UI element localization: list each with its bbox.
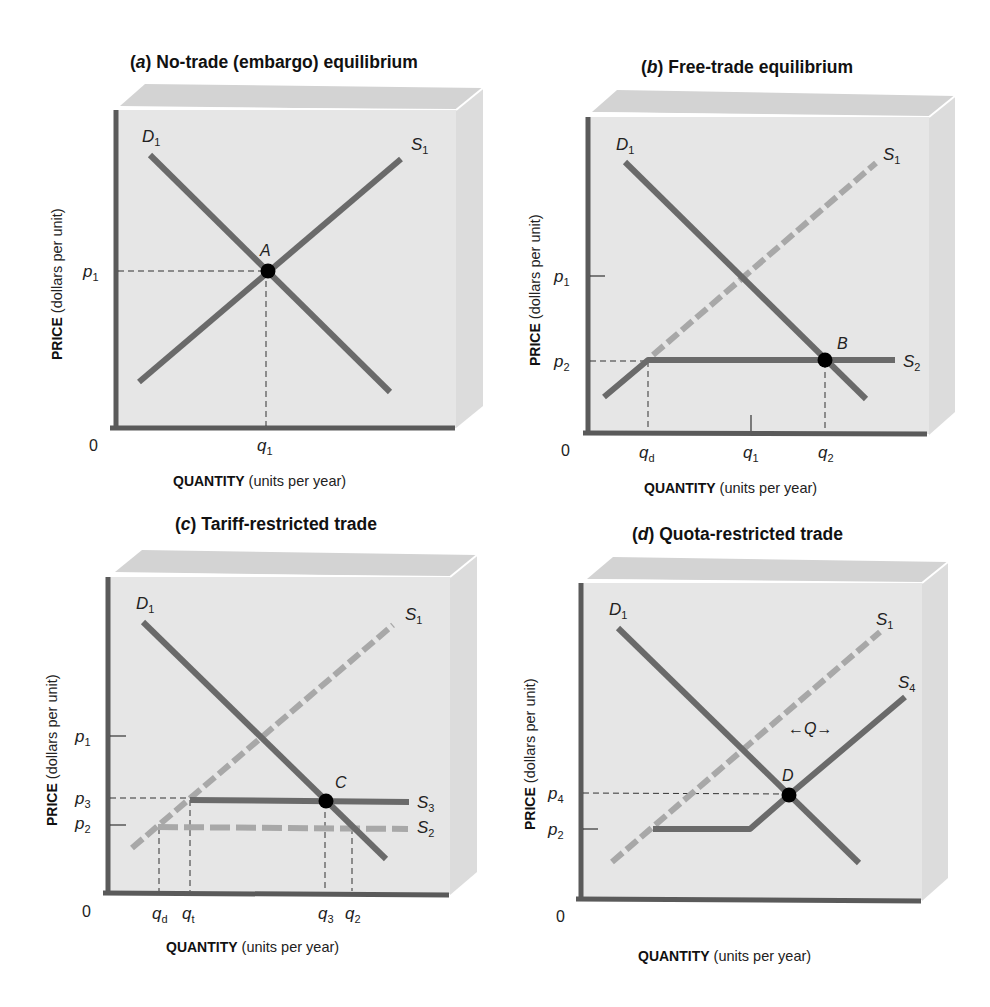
- equilibrium-point-c: [319, 794, 334, 809]
- x-axis: [103, 893, 449, 895]
- panel-b: (b) Free-trade equilibrium D1 S1 S2 B p1…: [527, 57, 955, 496]
- x-axis-title: QUANTITY (units per year): [638, 948, 811, 964]
- tick-label-p2: p2: [74, 814, 91, 835]
- panel-c-title: (c) Tariff-restricted trade: [175, 514, 377, 534]
- tick-label-p2: p2: [547, 820, 564, 841]
- tick-label-q1: q1: [257, 436, 273, 457]
- label-point-c: C: [335, 774, 347, 791]
- quota-annotation: ←Q→: [788, 720, 832, 737]
- equilibrium-point-b: [818, 353, 833, 368]
- origin-label: 0: [561, 442, 570, 459]
- tick-label-p1: p1: [82, 262, 99, 283]
- tick-label-p1: p1: [553, 267, 570, 288]
- y-axis-title: PRICE (dollars per unit): [44, 674, 60, 826]
- tick-label-p3: p3: [74, 789, 91, 810]
- tick-label-q2: q2: [818, 443, 834, 464]
- panel-d: (d) Quota-restricted trade ←Q→ D1 S1 S4 …: [522, 524, 948, 964]
- tick-label-qd: qd: [639, 443, 655, 464]
- y-axis-title: PRICE (dollars per unit): [49, 208, 65, 360]
- plot-area: [588, 117, 929, 434]
- box-top-face: [115, 550, 477, 577]
- panel-d-title: (d) Quota-restricted trade: [632, 524, 843, 544]
- panel-a: (a) No-trade (embargo) equilibrium D1 S1…: [49, 52, 483, 489]
- panel-b-title: (b) Free-trade equilibrium: [641, 57, 853, 77]
- origin-label: 0: [89, 437, 98, 454]
- figure-canvas: (a) No-trade (embargo) equilibrium D1 S1…: [0, 0, 990, 1007]
- box-side-face: [456, 88, 483, 428]
- equilibrium-point-a: [261, 264, 276, 279]
- label-point-d: D: [782, 767, 794, 784]
- label-point-b: B: [837, 335, 848, 352]
- x-axis-title: QUANTITY (units per year): [644, 480, 817, 496]
- tick-label-p4: p4: [547, 784, 564, 805]
- tick-label-p2: p2: [553, 352, 570, 373]
- tick-label-q3: q3: [318, 904, 334, 925]
- x-axis-title: QUANTITY (units per year): [173, 473, 346, 489]
- plot-area: [107, 577, 450, 894]
- box-side-face: [450, 555, 477, 895]
- tick-label-q1: q1: [743, 443, 759, 464]
- y-axis-title: PRICE (dollars per unit): [522, 678, 538, 830]
- tick-label-p1: p1: [74, 727, 91, 748]
- equilibrium-point-d: [782, 788, 797, 803]
- origin-label: 0: [556, 908, 565, 925]
- x-axis-title: QUANTITY (units per year): [166, 939, 339, 955]
- box-side-face: [929, 96, 955, 435]
- x-axis: [576, 899, 921, 901]
- y-axis-title: PRICE (dollars per unit): [527, 214, 543, 366]
- tick-label-q2: q2: [345, 904, 361, 925]
- label-point-a: A: [259, 242, 271, 259]
- x-axis: [583, 433, 927, 434]
- plot-area: [115, 110, 456, 428]
- box-top-face: [587, 557, 948, 583]
- box-side-face: [922, 562, 948, 901]
- supply-curve-s3: [190, 800, 409, 802]
- origin-label: 0: [82, 903, 91, 920]
- tick-label-qd: qd: [152, 904, 168, 925]
- box-top-face: [120, 84, 483, 110]
- panel-c: (c) Tariff-restricted trade D1 S1 S3 S2 …: [44, 514, 477, 955]
- panel-a-title: (a) No-trade (embargo) equilibrium: [130, 52, 418, 72]
- tick-label-qt: qt: [182, 904, 195, 925]
